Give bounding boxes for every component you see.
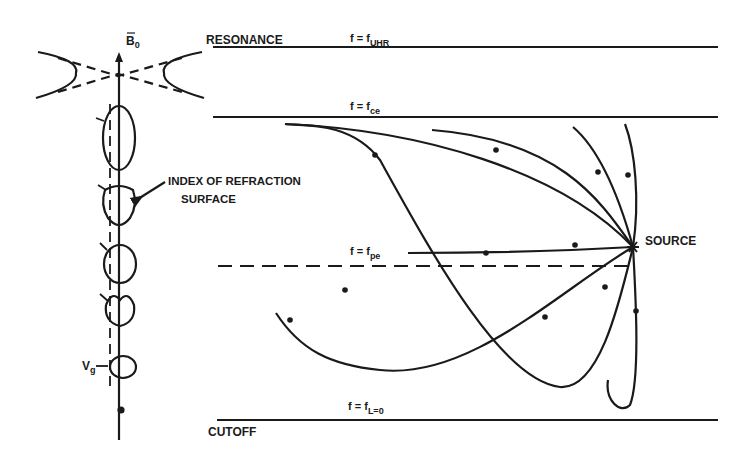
svg-text:Vg: Vg <box>82 359 96 375</box>
source-label: SOURCE <box>645 234 696 248</box>
cutoff-label: CUTOFF <box>208 425 256 439</box>
uhr-level-label: f = f <box>350 32 370 44</box>
ce-level-label: f = f <box>350 100 370 112</box>
pe-level-label: f = f <box>350 245 370 257</box>
svg-text:f = fL=0: f = fL=0 <box>348 400 384 416</box>
resonance-label: RESONANCE <box>206 33 283 47</box>
ray-path-diagram: RESONANCE f = fUHR f = fce f = fpe f = f… <box>0 0 731 462</box>
index-surface-label-1: INDEX OF REFRACTION <box>168 175 301 187</box>
svg-text:f = fUHR: f = fUHR <box>350 32 390 48</box>
b0-label: B <box>126 34 135 48</box>
l0-level-label: f = f <box>348 400 368 412</box>
svg-text:B0: B0 <box>126 34 140 50</box>
svg-text:f = fpe: f = fpe <box>350 245 380 261</box>
index-surface-label-2: SURFACE <box>181 193 236 205</box>
svg-text:f = fce: f = fce <box>350 100 380 116</box>
vg-label: V <box>82 359 90 373</box>
